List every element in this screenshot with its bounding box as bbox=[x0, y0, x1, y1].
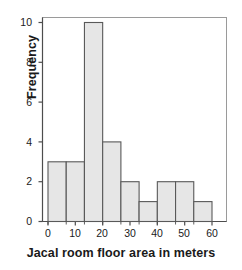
histogram-bar bbox=[84, 23, 102, 222]
histogram-bar bbox=[157, 182, 175, 222]
x-axis-ticks bbox=[48, 222, 212, 226]
histogram-bar bbox=[66, 162, 84, 222]
histogram-bars bbox=[48, 23, 212, 225]
histogram-bar bbox=[48, 162, 66, 222]
histogram-figure: Frequency Jacal room floor area in meter… bbox=[0, 0, 242, 270]
histogram-bar bbox=[121, 182, 139, 222]
histogram-bar bbox=[139, 202, 157, 222]
plot-area bbox=[0, 0, 242, 270]
histogram-bar bbox=[194, 202, 212, 222]
histogram-bar bbox=[176, 182, 194, 222]
histogram-bar bbox=[103, 142, 121, 222]
